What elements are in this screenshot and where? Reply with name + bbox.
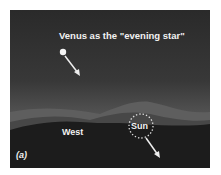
ground [10,121,210,168]
panel-label: (a) [16,150,27,160]
west-label: West [62,127,83,137]
venus-icon [60,49,66,55]
sun-label: Sun [131,121,148,131]
figure-title: Venus as the "evening star" [59,30,185,41]
venus-arrow-icon [65,56,78,73]
evening-sky-illustration: Venus as the "evening star" West Sun (a) [10,10,210,168]
